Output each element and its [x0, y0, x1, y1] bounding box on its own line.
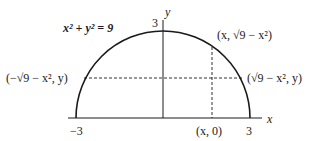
semicircle-diagram: x² + y² = 9 3 y (x, √9 − x²) (−√9 − x², …: [0, 0, 313, 141]
left-tick-label: −3: [70, 125, 83, 137]
equation-label: x² + y² = 9: [63, 22, 113, 34]
top-tick-label: 3: [152, 17, 158, 29]
right-point-label: (√9 − x², y): [247, 72, 302, 84]
left-point-label: (−√9 − x², y): [6, 72, 68, 84]
bottom-point-label: (x, 0): [196, 125, 222, 137]
y-axis-label: y: [165, 6, 170, 18]
right-tick-label: 3: [246, 125, 252, 137]
x-axis-label: x: [267, 113, 272, 125]
upper-right-point-label: (x, √9 − x²): [217, 29, 272, 41]
